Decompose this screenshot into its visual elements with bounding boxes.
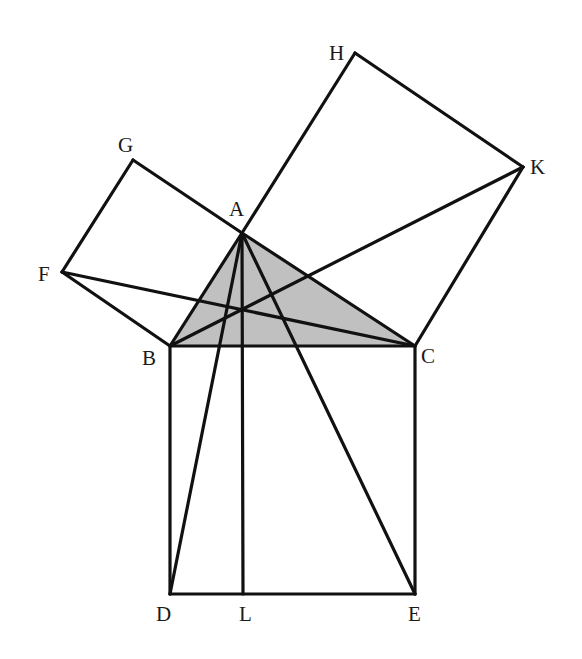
point-label-c: C xyxy=(421,344,435,368)
segment-ag xyxy=(133,160,242,233)
point-label-e: E xyxy=(408,602,421,626)
point-label-g: G xyxy=(118,133,133,157)
point-label-a: A xyxy=(229,197,245,221)
point-label-h: H xyxy=(329,41,344,65)
segment-ae xyxy=(242,233,415,594)
point-label-k: K xyxy=(530,155,545,179)
pythagorean-proof-diagram: ABCDELFGHK xyxy=(0,0,582,659)
point-label-b: B xyxy=(142,346,156,370)
segment-al xyxy=(242,233,243,594)
segment-hk xyxy=(355,53,523,167)
segment-gf xyxy=(62,160,133,272)
segment-ah xyxy=(242,53,355,233)
point-label-f: F xyxy=(38,262,50,286)
diagram-svg: ABCDELFGHK xyxy=(0,0,582,659)
point-label-l: L xyxy=(239,602,252,626)
point-label-d: D xyxy=(156,602,171,626)
